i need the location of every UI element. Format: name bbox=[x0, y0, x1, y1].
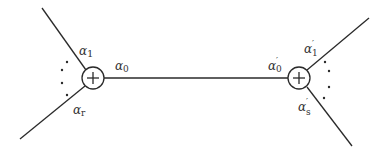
label-alpha-0: α 0 bbox=[115, 59, 129, 74]
edge-left-top bbox=[42, 8, 86, 70]
svg-text:α: α bbox=[268, 59, 276, 73]
right-junction-node bbox=[288, 67, 310, 89]
svg-text:1: 1 bbox=[87, 48, 93, 59]
edge-right-top bbox=[307, 18, 369, 70]
label-alpha-s-prime: α ′ s bbox=[298, 97, 311, 117]
right-ellipsis-dots bbox=[323, 61, 330, 99]
svg-text:α: α bbox=[298, 100, 306, 114]
left-ellipsis-dots bbox=[61, 61, 68, 96]
svg-text:1: 1 bbox=[312, 48, 318, 58]
svg-text:′: ′ bbox=[306, 97, 308, 107]
svg-text:α: α bbox=[79, 44, 87, 58]
svg-text:α: α bbox=[304, 42, 312, 56]
svg-text:r: r bbox=[81, 108, 86, 118]
svg-text:0: 0 bbox=[276, 64, 282, 74]
svg-text:α: α bbox=[73, 103, 81, 117]
left-junction-node bbox=[82, 67, 104, 89]
svg-text:0: 0 bbox=[123, 64, 129, 74]
diagram-svg: α 1 α r α 0 α ′ 0 α ′ 1 α ′ s bbox=[0, 0, 389, 153]
svg-text:s: s bbox=[306, 107, 311, 117]
label-alpha-1-prime: α ′ 1 bbox=[304, 39, 318, 58]
diagram-canvas: α 1 α r α 0 α ′ 0 α ′ 1 α ′ s bbox=[0, 0, 389, 153]
label-alpha-r: α r bbox=[73, 103, 86, 118]
edge-right-bottom bbox=[307, 87, 352, 146]
label-alpha-1: α 1 bbox=[79, 44, 93, 59]
label-alpha-0-prime: α ′ 0 bbox=[268, 56, 282, 74]
svg-text:α: α bbox=[115, 59, 123, 73]
